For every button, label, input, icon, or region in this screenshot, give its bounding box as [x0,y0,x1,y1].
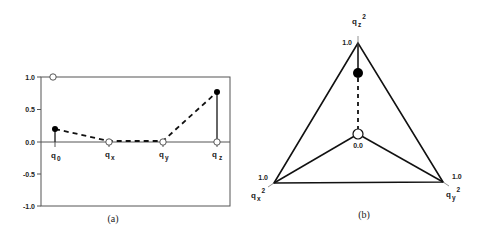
svg-text:qx: qx [105,150,115,161]
open-marker-qy [160,139,166,145]
svg-text:qz: qz [212,150,223,161]
qx2-axis-stub [268,183,274,187]
open-marker-qz [214,139,220,145]
center-to-qy2-edge [358,134,443,182]
open-marker-q0 [50,74,56,80]
dashed-series-line [55,92,217,141]
y-tick-label: 0.5 [25,106,35,113]
x-ticks [55,142,217,147]
open-marker-qx [106,139,112,145]
qx2-value-label: 1.0 [258,174,268,181]
y-tick-label: 0.0 [25,139,35,146]
filled-marker-q0 [52,126,58,132]
figure: 1.0 0.5 0.0 -0.5 -1.0 q0 qx qy [0,0,479,235]
y-tick-label: 1.0 [25,74,35,81]
y-tick-label: -1.0 [23,203,35,210]
qy2-vertex-label: qy2 [446,186,461,202]
caption-b: (b) [358,209,370,221]
qz2-value-label: 1.0 [342,39,352,46]
qy2-axis-stub [443,182,449,186]
svg-text:qy: qy [159,150,169,162]
filled-marker-qz [214,89,220,95]
panel-b-triangle-diagram: 0.0 1.0 1.0 1.0 qz2 qx2 qy2 (b) [251,13,462,221]
y-axis: 1.0 0.5 0.0 -0.5 -1.0 [23,74,41,210]
center-value-label: 0.0 [353,142,363,149]
y-tick-label: -0.5 [23,171,35,178]
qz2-vertex-label: qz2 [352,13,366,28]
qy2-value-label: 1.0 [452,173,462,180]
svg-text:q0: q0 [51,151,61,162]
filled-point [353,68,363,78]
qx2-vertex-label: qx2 [251,187,266,202]
caption-a: (a) [107,213,118,225]
panel-a-line-chart: 1.0 0.5 0.0 -0.5 -1.0 q0 qx qy [23,74,230,225]
x-axis-labels: q0 qx qy qz [51,150,223,162]
center-open-circle [353,129,363,139]
center-to-qx2-edge [274,134,358,183]
